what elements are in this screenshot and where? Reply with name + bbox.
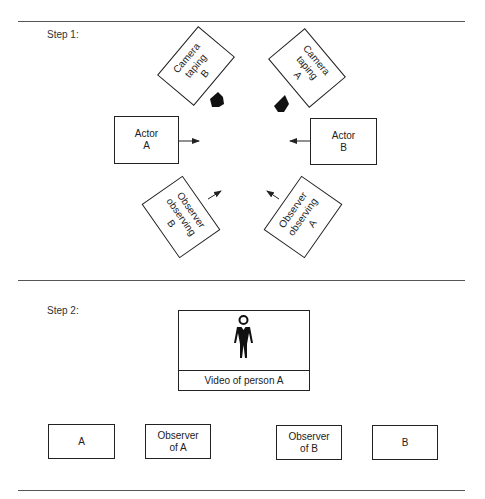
person-figure-icon bbox=[179, 311, 308, 369]
video-frame: Video of person A bbox=[178, 310, 310, 391]
video-screen bbox=[179, 311, 309, 371]
camera-lens-a-icon bbox=[274, 95, 289, 112]
box-b: B bbox=[372, 425, 438, 460]
box-a: A bbox=[48, 424, 115, 459]
box-a-label: A bbox=[78, 436, 85, 448]
box-b-label: B bbox=[402, 437, 409, 449]
box-observer-of-a: Observer of A bbox=[145, 424, 211, 459]
step-2-label: Step 2: bbox=[47, 305, 79, 316]
observer-b-arrow bbox=[208, 191, 221, 199]
video-caption: Video of person A bbox=[179, 370, 309, 390]
observer-a-arrow bbox=[267, 191, 279, 199]
box-observer-of-b: Observer of B bbox=[276, 425, 342, 460]
step-1-connectors bbox=[0, 0, 485, 280]
camera-lens-b-icon bbox=[210, 92, 224, 107]
box-observer-of-a-label: Observer of A bbox=[157, 430, 198, 454]
box-observer-of-b-label: Observer of B bbox=[288, 431, 329, 455]
middle-divider bbox=[18, 280, 465, 281]
bottom-divider bbox=[18, 490, 465, 491]
